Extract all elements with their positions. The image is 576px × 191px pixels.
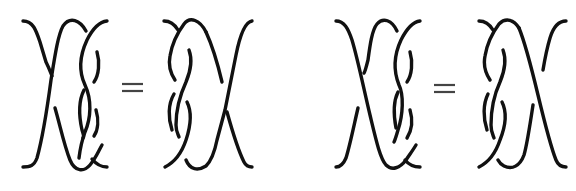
braid-strand <box>186 21 252 169</box>
braid-strand <box>405 160 420 167</box>
braid-strand <box>484 94 488 130</box>
braid-strand <box>23 20 86 167</box>
braid-strand <box>543 21 566 70</box>
braid-strand <box>491 50 505 138</box>
braid-relations-figure: Two braid identities, each showing two 3… <box>0 0 576 191</box>
equals-sign-1 <box>122 84 143 91</box>
braid-strand <box>169 94 174 130</box>
braid-strand <box>80 90 84 138</box>
braid-strand <box>394 92 398 128</box>
braid-strand <box>164 21 178 30</box>
braid-1b <box>164 20 252 169</box>
braid-strand <box>23 21 52 76</box>
braid-strand <box>364 20 397 73</box>
braid-strand <box>206 32 222 82</box>
braid-strand <box>407 110 412 138</box>
braid-strand <box>498 105 533 168</box>
braid-strand <box>227 112 252 167</box>
braid-strand <box>94 52 99 82</box>
braid-strand <box>479 21 493 30</box>
braid-strand <box>407 52 412 82</box>
braid-1a <box>23 20 107 169</box>
braid-strand <box>92 159 107 167</box>
braid-2b <box>479 20 566 167</box>
braid-strand <box>94 110 98 136</box>
braid-2a <box>336 20 420 168</box>
equals-sign-2 <box>434 85 455 92</box>
braid-strand <box>336 108 358 167</box>
